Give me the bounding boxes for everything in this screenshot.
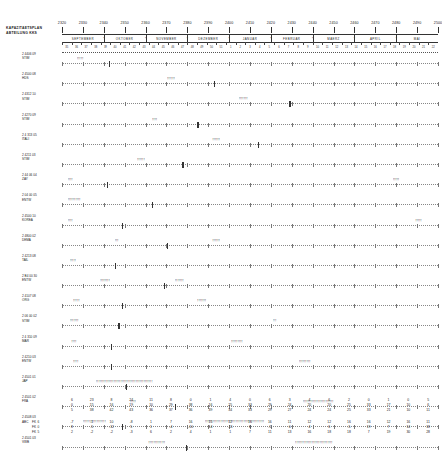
- task-row[interactable]: 2 4210 03ENTW!!!!!!!!!!!!!: [0, 353, 441, 373]
- task-row[interactable]: 2 4 310 09MAR!!!!!!!!!!!!!: [0, 333, 441, 353]
- track-tick: [250, 163, 251, 167]
- scale-number: 2420: [267, 21, 275, 26]
- chart-header: KAPAZITAETSPLAN ABTEILUNG KKS 2320233023…: [0, 10, 441, 50]
- task-track[interactable]: !!!!!!: [62, 164, 438, 165]
- week-number: 42: [133, 46, 136, 49]
- track-tick: [125, 203, 126, 207]
- task-bar-secondary[interactable]: !!!!!!!!!: [231, 338, 272, 347]
- task-bar[interactable]: !!!!!!: [137, 156, 160, 165]
- track-tick: [166, 183, 167, 187]
- task-bar-secondary[interactable]: !!!!!: [415, 217, 434, 226]
- task-row[interactable]: 2 4211 03STIM!!!!!!: [0, 151, 441, 171]
- footer-balance-value: 16: [307, 430, 311, 434]
- task-bar[interactable]: !!!!!!!!!!: [68, 196, 113, 205]
- task-track[interactable]: !!!!!!!!!!!!!!!!!!!!!!!!!!!!!!!!!!!!!!!!…: [62, 447, 438, 448]
- task-bar-secondary[interactable]: !!!!!!: [212, 237, 235, 246]
- task-bar-secondary[interactable]: !!!!!!!!!!!!!!!!!!!!!!!!!!!!!: [295, 439, 430, 448]
- scale-tick: [313, 27, 314, 33]
- task-bar[interactable]: !!!!: [68, 176, 83, 185]
- footer-balance-value: 7: [388, 425, 390, 429]
- task-track[interactable]: !!!!!!: [62, 83, 438, 84]
- task-track[interactable]: !!!!!!!!!!!!: [62, 305, 438, 306]
- task-bar-secondary[interactable]: !!!!!!!!!: [299, 358, 340, 367]
- task-row[interactable]: 2 4107 08ORG!!!!!!!!!!!!: [0, 292, 441, 312]
- footer-balance-value: 5: [130, 425, 132, 429]
- task-row[interactable]: 2 4270 09STIM!!!!: [0, 111, 441, 131]
- track-tick: [208, 224, 209, 228]
- week-number: 4: [259, 46, 261, 49]
- task-track[interactable]: !!!!!!!!!!!!!!!: [62, 285, 438, 286]
- track-tick: [438, 224, 439, 228]
- track-tick: [354, 385, 355, 389]
- day-tick: [332, 42, 333, 45]
- task-anchor-marker: [152, 202, 153, 208]
- task-bar[interactable]: !!!!!: [77, 55, 100, 64]
- task-row[interactable]: 2 B4 00 30ENTW!!!!!!!!!!!!!!!: [0, 272, 441, 292]
- track-tick: [187, 345, 188, 349]
- track-tick: [83, 183, 84, 187]
- task-bar[interactable]: !!!!!!!!: [100, 277, 138, 286]
- footer-capacity-value: 38: [189, 403, 193, 407]
- task-bar-secondary[interactable]: !!!: [273, 317, 288, 326]
- task-row[interactable]: 2 4500 10KOREA!!!!!!!!!: [0, 212, 441, 232]
- task-track[interactable]: !!!!!!!!!!: [62, 204, 438, 205]
- task-row[interactable]: 2 4501 02FRA!!!!!!!!!!!!!!!!!!!!!!!!!!!!…: [0, 393, 441, 413]
- task-row[interactable]: 2 04 00 05ENTW!!!!!!!!!!: [0, 191, 441, 211]
- task-row[interactable]: 2 4 313 05ITALI!!!!!!: [0, 131, 441, 151]
- task-track[interactable]: !!!!!!!!!!!!!: [62, 346, 438, 347]
- task-row[interactable]: 2 44 06 04ZAY!!!!!!!!!: [0, 171, 441, 191]
- task-bar[interactable]: !!!!!!!!!!!!!!!!!!: [83, 418, 166, 427]
- track-tick: [104, 324, 105, 328]
- task-track[interactable]: !!!!!: [62, 63, 438, 64]
- task-track[interactable]: !!!!!!!!!: [62, 184, 438, 185]
- task-bar[interactable]: !!!!!!!: [70, 317, 100, 326]
- task-track[interactable]: !!!!!!!!!!: [62, 325, 438, 326]
- track-tick: [62, 446, 63, 450]
- task-bar-secondary[interactable]: !!!!!!!: [175, 277, 209, 286]
- task-track[interactable]: !!!!!!!!!: [62, 245, 438, 246]
- footer-balance-value: -5: [268, 425, 271, 429]
- task-row[interactable]: 2 4800 02DEMA!!!!!!!!!: [0, 232, 441, 252]
- task-row[interactable]: 2 4500 08HDS!!!!!!: [0, 70, 441, 90]
- task-bar[interactable]: !!!!: [73, 358, 92, 367]
- task-bar[interactable]: !!!!!: [70, 257, 93, 266]
- track-tick: [396, 62, 397, 66]
- task-track[interactable]: !!!!: [62, 124, 438, 125]
- track-tick: [271, 264, 272, 268]
- task-track[interactable]: !!!!!!!!!!!!!: [62, 366, 438, 367]
- task-bar-secondary[interactable]: !!!!!: [393, 176, 416, 185]
- task-bar[interactable]: !!!!: [152, 116, 171, 125]
- task-row[interactable]: 2 4213 08TAIL!!!!!: [0, 252, 441, 272]
- day-tick: [390, 42, 391, 45]
- task-bar[interactable]: !!!!!!: [167, 75, 191, 84]
- task-track[interactable]: !!!!!: [62, 265, 438, 266]
- task-bar-secondary[interactable]: !!!!!!!!!!!!!!!!!!!!!!!!: [303, 398, 416, 407]
- task-bar[interactable]: !!!: [115, 237, 134, 246]
- task-bar[interactable]: !!!!: [71, 338, 90, 347]
- task-track[interactable]: !!!!!!: [62, 144, 438, 145]
- task-row[interactable]: 2 4501 01JAP!!!!!!!!!!!!!!!!!!!!!!!!!!!!…: [0, 373, 441, 393]
- task-bar-secondary[interactable]: !!!!!!!: [197, 297, 227, 306]
- scale-number: 2380: [183, 21, 191, 26]
- footer-capacity-value: 24: [129, 398, 133, 402]
- scale-number: 2450: [329, 21, 337, 26]
- track-tick: [104, 183, 105, 187]
- scale-tick: [62, 27, 63, 33]
- task-bar[interactable]: !!!!!!!!!!!!!: [148, 439, 208, 448]
- task-row[interactable]: 2 06 00 02STIM!!!!!!!!!!: [0, 312, 441, 332]
- task-bar[interactable]: !!!!!!: [212, 136, 238, 145]
- task-row[interactable]: 2 4312 10STIM!!!!!!!: [0, 90, 441, 110]
- task-track[interactable]: !!!!!!!!!!!!!!!!!!!!!!!!!!!!!!!!!!!!!!!!…: [62, 386, 438, 387]
- scale-tick: [438, 27, 439, 33]
- task-anchor-marker: [111, 364, 112, 370]
- task-bar[interactable]: !!!!: [68, 217, 87, 226]
- task-row[interactable]: 2 4406 09STIM!!!!!: [0, 50, 441, 70]
- track-tick: [83, 244, 84, 248]
- task-track[interactable]: !!!!!!!: [62, 103, 438, 104]
- task-bar[interactable]: !!!!!: [73, 297, 96, 306]
- task-row[interactable]: 2 4501 03VWB!!!!!!!!!!!!!!!!!!!!!!!!!!!!…: [0, 434, 441, 451]
- task-row[interactable]: 2 4508 03ABC!!!!!!!!!!!!!!!!!!!!!!!!!!!!…: [0, 413, 441, 433]
- task-track[interactable]: !!!!!!!!!: [62, 225, 438, 226]
- task-bar[interactable]: !!!!!!!: [239, 95, 269, 104]
- track-tick: [438, 324, 439, 328]
